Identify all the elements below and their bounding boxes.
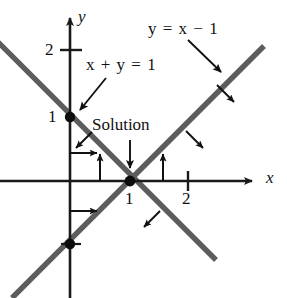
equation-label-line1: x + y = 1 [86, 56, 157, 73]
direction-arrow-downleft-2 [144, 211, 160, 227]
solution-label: Solution [92, 116, 150, 133]
graph-canvas [0, 0, 287, 298]
leader-line-y-equals-x-minus-1 [188, 40, 221, 72]
x-tick-label-2: 2 [182, 190, 191, 207]
direction-arrow-downleft-1 [76, 132, 92, 148]
leader-line-x-plus-y [80, 78, 106, 110]
y-axis-label: y [78, 8, 86, 25]
solution-point-marker [125, 176, 136, 187]
x-tick-label-1: 1 [125, 190, 134, 207]
y-tick-label-1: 1 [48, 108, 57, 125]
line-y-equals-x-minus-1 [12, 46, 264, 298]
equation-label-line2: y = x − 1 [148, 20, 219, 37]
direction-arrow-downright-1 [186, 131, 203, 148]
y-tick-label-2: 2 [45, 41, 54, 58]
y-axis [60, 18, 82, 298]
x-axis-label: x [266, 169, 274, 186]
y-intercept-point-marker [65, 112, 75, 122]
graph-figure: y x 2 1 1 2 x + y = 1 y = x − 1 Solution [0, 0, 287, 298]
negative-y-intercept-point-marker [65, 239, 75, 249]
